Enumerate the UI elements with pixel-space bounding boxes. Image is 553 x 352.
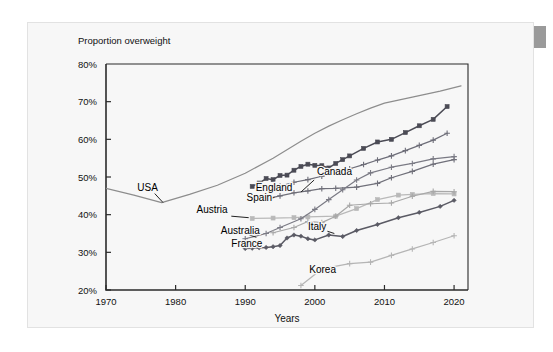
y-tick-label: 20% — [78, 285, 98, 296]
y-tick-label: 50% — [78, 172, 98, 183]
x-tick-label: 2000 — [304, 296, 325, 307]
data-point — [403, 148, 409, 154]
chart-svg: Proportion overweight20%30%40%50%60%70%8… — [0, 0, 553, 352]
y-tick-label: 80% — [78, 59, 98, 70]
data-point — [278, 173, 282, 177]
data-point — [333, 186, 339, 192]
data-point — [389, 253, 395, 259]
data-point — [354, 228, 358, 232]
y-tick-label: 40% — [78, 209, 98, 220]
series-spain — [263, 157, 457, 202]
series-line — [252, 194, 454, 219]
data-point — [430, 156, 436, 162]
data-point — [389, 200, 395, 206]
x-tick-label: 1970 — [95, 296, 116, 307]
data-point — [396, 193, 400, 197]
data-point — [306, 237, 310, 241]
data-point — [410, 246, 416, 252]
data-point — [285, 173, 289, 177]
series-korea — [298, 233, 457, 288]
data-point — [327, 233, 331, 237]
data-point — [430, 240, 436, 246]
data-point — [271, 244, 275, 248]
series-label: France — [231, 238, 263, 249]
data-point — [264, 177, 268, 181]
data-point — [431, 117, 435, 121]
label-leader-line — [231, 216, 248, 218]
data-point — [277, 193, 283, 199]
data-point — [403, 131, 407, 135]
data-point — [271, 178, 275, 182]
data-point — [306, 162, 310, 166]
data-point — [430, 161, 436, 167]
chart-title: Proportion overweight — [78, 35, 171, 46]
data-point — [291, 225, 297, 231]
data-point — [375, 222, 379, 226]
data-point — [368, 259, 374, 265]
data-point — [376, 198, 380, 202]
series-label: Austria — [197, 204, 229, 215]
data-point — [341, 158, 345, 162]
data-point — [319, 186, 325, 192]
data-point — [292, 216, 296, 220]
data-point — [299, 234, 303, 238]
y-tick-label: 30% — [78, 247, 98, 258]
data-point — [277, 225, 283, 231]
series-label: Canada — [317, 166, 352, 177]
data-point — [354, 184, 360, 190]
series-label: Italy — [308, 221, 326, 232]
data-point — [340, 234, 344, 238]
data-point — [376, 140, 380, 144]
series-line — [273, 191, 454, 232]
data-point — [355, 207, 359, 211]
data-point — [347, 261, 353, 267]
y-tick-label: 60% — [78, 134, 98, 145]
data-point — [416, 143, 422, 149]
series-label: Korea — [309, 264, 336, 275]
y-tick-label: 70% — [78, 96, 98, 107]
data-point — [334, 161, 338, 165]
data-point — [445, 105, 449, 109]
data-point — [451, 154, 457, 160]
data-point — [444, 131, 450, 137]
data-point — [375, 181, 381, 187]
x-tick-label: 2020 — [444, 296, 465, 307]
x-tick-label: 1980 — [165, 296, 186, 307]
series-line — [301, 236, 454, 286]
data-point — [250, 184, 254, 188]
data-point — [305, 188, 311, 194]
line-chart: Proportion overweight20%30%40%50%60%70%8… — [0, 0, 553, 352]
data-point — [305, 177, 311, 183]
data-point — [417, 210, 421, 214]
data-point — [417, 124, 421, 128]
data-point — [430, 137, 436, 143]
data-point — [299, 164, 303, 168]
data-point — [263, 231, 269, 237]
data-point — [451, 233, 457, 239]
data-point — [452, 198, 456, 202]
data-point — [361, 162, 367, 168]
data-point — [389, 175, 395, 181]
series-label: Spain — [247, 192, 273, 203]
data-point — [438, 204, 442, 208]
data-point — [410, 161, 416, 167]
series-label: Australia — [221, 225, 260, 236]
data-point — [271, 216, 275, 220]
data-point — [292, 168, 296, 172]
data-point — [375, 157, 381, 163]
data-point — [410, 169, 416, 175]
data-point — [389, 164, 395, 170]
data-point — [250, 216, 254, 220]
x-tick-label: 1990 — [235, 296, 256, 307]
data-point — [389, 137, 393, 141]
x-tick-label: 2010 — [374, 296, 395, 307]
x-axis-title: Years — [274, 313, 299, 324]
data-point — [389, 153, 395, 159]
data-point — [264, 245, 268, 249]
data-point — [396, 215, 400, 219]
series-label: USA — [137, 182, 158, 193]
data-point — [348, 154, 352, 158]
data-point — [292, 233, 296, 237]
data-point — [368, 170, 374, 176]
data-point — [362, 146, 366, 150]
